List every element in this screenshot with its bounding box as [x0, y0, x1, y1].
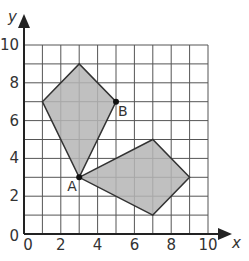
coordinate-grid: x y 02468100246810 AB [0, 0, 249, 261]
y-tick-label: 10 [0, 36, 19, 54]
grid-lines [24, 45, 208, 234]
x-tick-label: 4 [93, 236, 103, 254]
x-tick-label: 10 [198, 236, 217, 254]
point-a [76, 174, 82, 180]
quadrilateral-shape [79, 140, 189, 216]
y-tick-label: 2 [9, 187, 19, 205]
x-axis-label: x [231, 234, 241, 252]
point-a-label: A [67, 178, 77, 194]
y-axis-arrow-icon [18, 14, 30, 28]
y-axis-label: y [7, 8, 18, 26]
x-tick-label: 0 [23, 236, 33, 254]
y-tick-label: 6 [9, 112, 19, 130]
x-tick-label: 8 [166, 236, 176, 254]
x-tick-label: 6 [130, 236, 140, 254]
kite-shape [42, 64, 116, 177]
y-tick-label: 4 [9, 149, 19, 167]
y-tick-label: 8 [9, 74, 19, 92]
tick-labels: 02468100246810 [0, 36, 218, 254]
y-tick-label: 0 [9, 227, 19, 245]
x-axis-arrow-icon [218, 228, 232, 240]
x-tick-label: 2 [56, 236, 66, 254]
point-b-label: B [118, 103, 128, 119]
